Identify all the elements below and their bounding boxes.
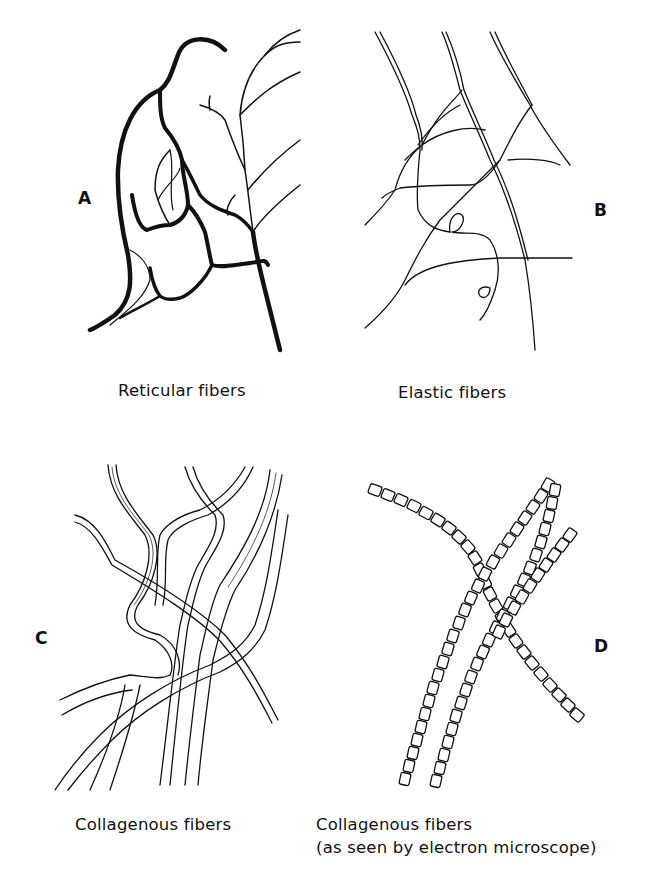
- panel-label-d: D: [594, 636, 608, 656]
- caption-collagenous-fibers-em-line2: (as seen by electron microscope): [316, 838, 597, 857]
- caption-collagenous-fibers-em-line1: Collagenous fibers: [316, 815, 472, 834]
- collagenous-fibers-em-drawing: [360, 460, 640, 800]
- reticular-fibers-drawing: [60, 0, 310, 360]
- caption-collagenous-fibers: Collagenous fibers: [75, 815, 231, 834]
- elastic-fibers-drawing: [340, 20, 620, 360]
- caption-reticular-fibers: Reticular fibers: [118, 381, 246, 400]
- panel-label-c: C: [35, 628, 47, 648]
- caption-elastic-fibers: Elastic fibers: [398, 383, 506, 402]
- collagenous-fibers-drawing: [20, 455, 310, 795]
- panel-label-b: B: [594, 200, 607, 220]
- panel-label-a: A: [78, 188, 91, 208]
